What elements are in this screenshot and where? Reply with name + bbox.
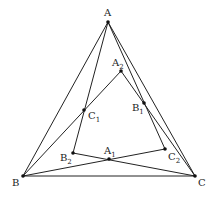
- point-c2: [163, 147, 167, 151]
- labels: ABCA1B1C1A2B2C2: [12, 7, 206, 188]
- segment-c-a2: [121, 71, 195, 176]
- point-b: [21, 174, 25, 178]
- point-c1: [82, 108, 86, 112]
- label-c: C: [198, 177, 206, 188]
- label-b2: B2: [60, 152, 72, 166]
- point-c: [193, 174, 197, 178]
- segment-a-c2: [108, 22, 165, 149]
- label-c1: C1: [88, 110, 100, 124]
- segment-a-b2: [73, 22, 108, 153]
- label-a1: A1: [103, 145, 116, 159]
- point-b1: [142, 101, 146, 105]
- label-b1: B1: [132, 102, 144, 116]
- label-b: B: [12, 177, 19, 188]
- point-a: [106, 20, 110, 24]
- point-b2: [71, 151, 75, 155]
- label-a: A: [103, 7, 112, 18]
- segment-c-a: [108, 22, 195, 176]
- label-a2: A2: [111, 57, 124, 71]
- geometry-diagram: ABCA1B1C1A2B2C2: [0, 0, 220, 197]
